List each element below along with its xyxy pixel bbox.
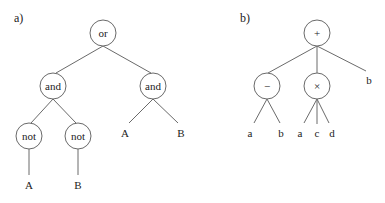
edge-or-and-right (103, 46, 151, 73)
edge-times-a (304, 99, 317, 123)
edge-and-A (129, 99, 153, 123)
node-times-label: × (314, 80, 320, 92)
leaf-b-under-minus: b (278, 127, 284, 139)
edge-times-d (317, 99, 329, 123)
edge-and-not-right (53, 99, 76, 123)
node-and-right-label: and (145, 80, 161, 92)
panel-a-label: a) (14, 11, 23, 25)
edge-or-and-left (56, 46, 103, 73)
node-or-label: or (98, 27, 108, 39)
edge-plus-b (317, 46, 366, 71)
leaf-A-under-not: A (25, 179, 33, 191)
leaf-B-under-not: B (74, 179, 81, 191)
leaf-a-under-times: a (298, 127, 303, 139)
edge-minus-a (254, 99, 267, 123)
leaf-A-under-and: A (121, 127, 129, 139)
diagram-canvas: a) or and and not not A B A B b) (0, 0, 385, 203)
node-minus-label: − (264, 80, 270, 92)
tree-b: b) + − × b a b a c d (240, 11, 372, 139)
edge-and-B (153, 99, 178, 123)
node-and-left-label: and (45, 80, 61, 92)
node-not-left-label: not (22, 130, 36, 142)
panel-b-label: b) (240, 11, 250, 25)
edge-and-not-left (31, 99, 53, 123)
leaf-d-under-times: d (329, 127, 335, 139)
leaf-a-under-minus: a (248, 127, 253, 139)
leaf-b-under-plus: b (366, 74, 372, 86)
leaf-B-under-and: B (177, 127, 184, 139)
node-not-right-label: not (71, 130, 85, 142)
edge-minus-b (267, 99, 280, 123)
leaf-c-under-times: c (315, 127, 320, 139)
edge-plus-minus (268, 46, 317, 73)
node-plus-label: + (314, 27, 320, 39)
tree-a: a) or and and not not A B A B (14, 11, 185, 191)
